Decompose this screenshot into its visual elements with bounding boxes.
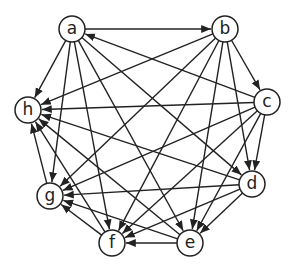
node-label: a [67,18,77,38]
node-b: b [212,16,238,42]
graph-canvas: abcdefgh [0,0,298,271]
edge-b-to-c [231,40,260,90]
edge-a-to-h [35,40,66,97]
node-label: h [23,99,34,119]
edge-b-to-e [192,42,223,229]
edge-c-to-h [42,102,254,109]
edge-b-to-d [227,42,249,170]
edges-layer [31,29,264,243]
directed-graph-diagram: abcdefgh [0,0,298,271]
node-label: d [247,173,258,193]
nodes-layer: abcdefgh [15,16,280,256]
edge-b-to-f [119,40,219,230]
node-h: h [15,97,41,123]
edge-d-to-g [64,185,239,195]
node-c: c [254,89,280,115]
node-a: a [59,16,85,42]
edge-g-to-h [31,124,46,184]
node-d: d [239,171,265,197]
node-e: e [177,230,203,256]
node-label: c [262,91,271,111]
node-label: e [185,232,195,252]
edge-c-to-a [85,34,255,98]
node-label: b [220,18,231,38]
edge-f-to-g [61,204,101,235]
node-g: g [37,183,63,209]
node-label: g [45,185,56,205]
edge-a-to-e [78,40,183,230]
edge-c-to-f [122,111,257,234]
node-f: f [99,230,125,256]
node-label: f [109,232,116,252]
